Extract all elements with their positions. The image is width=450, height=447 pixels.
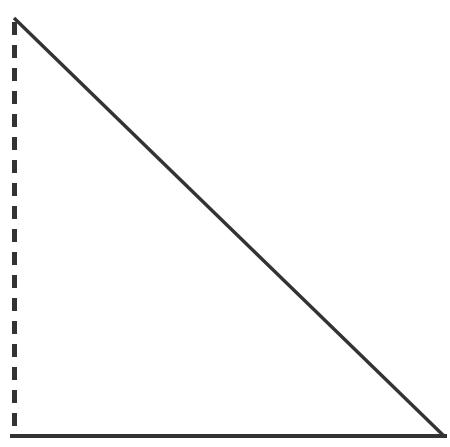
- triangle-diagram: [0, 0, 450, 447]
- figure-root: [0, 0, 450, 447]
